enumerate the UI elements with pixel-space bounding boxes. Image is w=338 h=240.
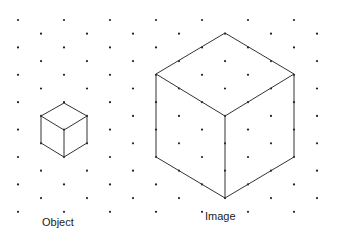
image-cube (156, 33, 294, 198)
object-cube (41, 103, 87, 157)
object-label: Object (42, 216, 74, 228)
image-label: Image (205, 210, 236, 222)
dot-grid (17, 19, 318, 213)
isometric-diagram (0, 0, 338, 240)
